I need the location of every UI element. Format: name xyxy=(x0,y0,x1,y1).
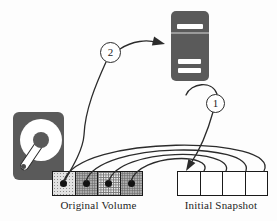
arrowhead-to-snapshot xyxy=(186,159,195,171)
server-slot xyxy=(178,59,201,64)
step-1-number: 1 xyxy=(213,98,219,109)
initial-snapshot-label: Initial Snapshot xyxy=(174,199,268,211)
server-slot xyxy=(177,24,203,29)
initial-snapshot-row xyxy=(177,171,268,196)
step-2-number: 2 xyxy=(108,47,114,58)
disk-arm-tip-dot xyxy=(21,164,26,169)
initial-snapshot-row-block-1 xyxy=(178,172,201,195)
block-pointer-dot xyxy=(128,180,135,187)
initial-snapshot-row-block-3 xyxy=(223,172,246,195)
step2-arrow-line xyxy=(120,41,157,49)
block-pointer-dot xyxy=(105,180,112,187)
server-icon xyxy=(171,11,209,81)
original-volume-label: Original Volume xyxy=(52,199,145,211)
step1-arrow-line xyxy=(191,112,213,163)
original-volume-row-block-2 xyxy=(76,172,99,195)
step2-to-volume-line xyxy=(65,62,106,180)
arrowhead-to-server xyxy=(152,37,165,46)
block-pointer-dot xyxy=(83,180,90,187)
initial-snapshot-row-block-4 xyxy=(246,172,268,195)
hard-disk-icon xyxy=(13,112,64,180)
initial-snapshot-row-block-2 xyxy=(201,172,224,195)
step-2-badge: 2 xyxy=(100,42,121,63)
disk-hub xyxy=(33,132,49,148)
original-volume-row-block-3 xyxy=(98,172,121,195)
snapshot-diagram: 2 1 Original Volume Initial Snapshot xyxy=(0,0,277,221)
original-volume-row xyxy=(52,171,143,196)
server-panel-line xyxy=(171,32,209,34)
server-slot xyxy=(178,68,201,73)
original-volume-row-block-4 xyxy=(121,172,143,195)
original-volume-row-block-1 xyxy=(53,172,76,195)
step-1-badge: 1 xyxy=(206,94,225,113)
block-pointer-dot xyxy=(60,180,67,187)
